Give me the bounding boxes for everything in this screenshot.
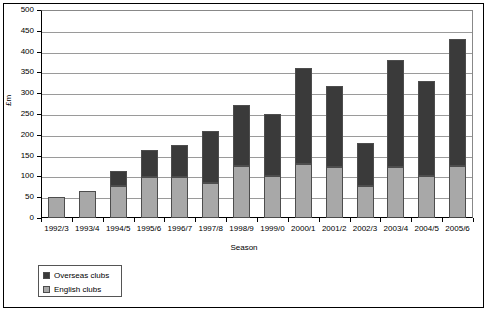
x-axis-title: Season xyxy=(0,243,488,252)
x-tick-mark xyxy=(195,218,196,222)
bar-segment-overseas xyxy=(141,150,158,177)
x-tick-mark xyxy=(164,218,165,222)
bars-layer xyxy=(41,10,473,218)
bar-segment-overseas xyxy=(110,171,127,186)
bar-segment-overseas xyxy=(449,39,466,166)
bar-segment-english xyxy=(449,166,466,218)
y-tick-label: 450 xyxy=(2,27,34,35)
x-tick-mark xyxy=(41,218,42,222)
bar-segment-overseas xyxy=(326,86,343,167)
legend-label-overseas: Overseas clubs xyxy=(54,271,109,280)
legend-item-overseas: Overseas clubs xyxy=(43,268,109,282)
x-tick-mark xyxy=(257,218,258,222)
x-tick-mark xyxy=(442,218,443,222)
bar-segment-overseas xyxy=(387,60,404,167)
bar-segment-english xyxy=(357,186,374,218)
bar-segment-overseas xyxy=(418,81,435,177)
bar-segment-english xyxy=(387,167,404,218)
bar-segment-overseas xyxy=(202,131,219,183)
bar-segment-english xyxy=(48,197,65,218)
bar-segment-overseas xyxy=(171,145,188,177)
legend-swatch-english-icon xyxy=(43,286,50,293)
bar-segment-overseas xyxy=(295,68,312,164)
bar-segment-english xyxy=(326,167,343,218)
y-tick-label: 100 xyxy=(2,172,34,180)
x-tick-mark xyxy=(226,218,227,222)
legend-item-english: English clubs xyxy=(43,282,101,296)
y-tick-label: 0 xyxy=(2,214,34,222)
x-tick-label: 2005/6 xyxy=(438,224,478,233)
x-tick-mark xyxy=(350,218,351,222)
bar-segment-english xyxy=(171,177,188,218)
y-tick-label: 400 xyxy=(2,48,34,56)
y-tick-label: 200 xyxy=(2,131,34,139)
x-tick-mark xyxy=(103,218,104,222)
x-tick-mark xyxy=(134,218,135,222)
x-tick-mark xyxy=(288,218,289,222)
x-tick-mark xyxy=(411,218,412,222)
bar-segment-english xyxy=(264,176,281,218)
legend-swatch-overseas-icon xyxy=(43,272,50,279)
y-tick-label: 300 xyxy=(2,89,34,97)
bar-segment-overseas xyxy=(264,114,281,176)
legend: Overseas clubs English clubs xyxy=(38,265,122,297)
bar-segment-overseas xyxy=(357,143,374,185)
bar-segment-english xyxy=(202,183,219,218)
chart-root: £m 050100150200250300350400450500 1992/3… xyxy=(0,0,488,311)
y-tick-label: 250 xyxy=(2,110,34,118)
x-tick-mark xyxy=(380,218,381,222)
x-tick-mark xyxy=(319,218,320,222)
y-tick-label: 50 xyxy=(2,193,34,201)
x-tick-mark xyxy=(72,218,73,222)
bar-segment-english xyxy=(79,191,96,218)
bar-segment-english xyxy=(418,176,435,218)
x-tick-mark xyxy=(473,218,474,222)
bar-segment-english xyxy=(110,186,127,218)
y-tick-label: 500 xyxy=(2,6,34,14)
legend-label-english: English clubs xyxy=(54,285,101,294)
bar-segment-overseas xyxy=(233,105,250,166)
bar-segment-english xyxy=(141,177,158,218)
y-tick-label: 350 xyxy=(2,68,34,76)
y-tick-label: 150 xyxy=(2,152,34,160)
bar-segment-english xyxy=(295,164,312,218)
bar-segment-english xyxy=(233,166,250,218)
